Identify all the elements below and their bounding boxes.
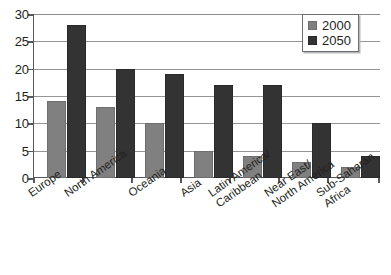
- x-axis-label-asia-line1: Asia: [178, 176, 203, 199]
- legend-swatch-2050-icon: [308, 36, 317, 45]
- bar-2000-asia: [194, 151, 213, 178]
- bar-group-asia: [191, 14, 240, 178]
- x-tick-mark-3: [180, 178, 182, 183]
- x-tick-mark-2: [131, 178, 133, 183]
- x-axis-label-asia: Asia: [178, 176, 203, 199]
- y-axis-label-15: 15: [0, 90, 29, 103]
- y-axis-label-25: 25: [0, 35, 29, 48]
- y-axis-label-0: 0: [0, 172, 29, 185]
- bar-2050-oceania: [165, 74, 184, 178]
- y-axis-label-20: 20: [0, 63, 29, 76]
- chart-legend: 2000 2050: [302, 14, 359, 52]
- y-axis-label-10: 10: [0, 117, 29, 130]
- bar-group-oceania: [142, 14, 191, 178]
- legend-label-2050: 2050: [322, 34, 351, 47]
- bar-chart: 30 25 20 15 10 5 0: [0, 0, 391, 275]
- bar-2050-asia: [214, 85, 233, 178]
- legend-entry-2050: 2050: [308, 33, 351, 48]
- legend-swatch-2000-icon: [308, 21, 317, 30]
- y-axis-label-30: 30: [0, 8, 29, 21]
- bar-2000-europe: [47, 101, 66, 178]
- bar-2050-europe: [67, 25, 86, 178]
- y-axis-label-5: 5: [0, 145, 29, 158]
- bar-group-europe: [44, 14, 93, 178]
- legend-entry-2000: 2000: [308, 18, 351, 33]
- x-tick-mark-7: [378, 178, 380, 183]
- legend-label-2000: 2000: [322, 19, 351, 32]
